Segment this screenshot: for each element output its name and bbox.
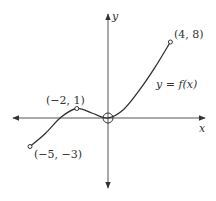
point-label-4-8: (4, 8) <box>174 28 204 41</box>
closed-point <box>28 145 32 149</box>
closed-point <box>168 40 172 44</box>
y-axis-label: y <box>111 10 119 23</box>
closed-point <box>75 107 79 111</box>
x-axis-label: x <box>199 122 206 135</box>
function-graph: y x (4, 8) y = f(x) (−2, 1) (−5, −3) <box>0 0 216 201</box>
function-label: y = f(x) <box>155 78 197 91</box>
point-label-neg2-1: (−2, 1) <box>46 94 85 107</box>
point-label-neg5-neg3: (−5, −3) <box>34 148 82 161</box>
